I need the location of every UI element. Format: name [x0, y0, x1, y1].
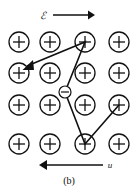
- ion-marker: [9, 63, 29, 83]
- field-arrow-head: [88, 11, 95, 20]
- electron-marker: [59, 86, 71, 98]
- ion-marker: [40, 32, 60, 52]
- ion-marker: [9, 32, 29, 52]
- physics-figure: ℰ: [0, 0, 139, 189]
- ion-marker: [9, 134, 29, 154]
- lattice-diagram-svg: ℰ: [0, 0, 139, 189]
- ion-marker: [40, 95, 60, 115]
- ion-marker: [109, 32, 129, 52]
- ion-marker: [109, 63, 129, 83]
- drift-label: u: [108, 160, 113, 170]
- ion-marker: [40, 63, 60, 83]
- field-label: ℰ: [40, 10, 47, 21]
- field-arrow: [53, 11, 95, 20]
- trajectory-polyline: [27, 42, 119, 144]
- ion-marker: [75, 95, 95, 115]
- ion-marker: [109, 134, 129, 154]
- drift-arrow-head: [39, 160, 47, 170]
- figure-caption: (b): [63, 175, 75, 187]
- ion-marker: [75, 63, 95, 83]
- ion-marker: [40, 134, 60, 154]
- ion-marker: [9, 95, 29, 115]
- drift-arrow: [39, 160, 103, 170]
